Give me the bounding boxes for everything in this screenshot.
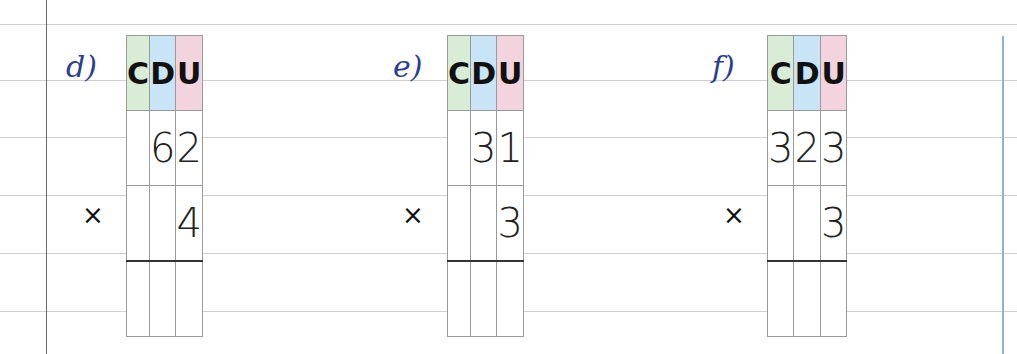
multiplier-d[interactable] bbox=[794, 186, 820, 262]
blue-margin-line bbox=[1002, 36, 1004, 354]
header-d: D bbox=[794, 36, 820, 111]
header-u: U bbox=[820, 36, 846, 111]
place-value-grid: C D U 3 1 3 bbox=[447, 35, 524, 337]
exercise-label: e) bbox=[393, 49, 422, 84]
multiplicand-c[interactable]: 3 bbox=[768, 111, 794, 186]
header-u: U bbox=[176, 36, 202, 111]
margin-line bbox=[46, 0, 47, 354]
multiply-sign: × bbox=[82, 200, 104, 230]
header-d: D bbox=[471, 36, 497, 111]
multiplicand-d[interactable]: 3 bbox=[471, 111, 497, 186]
header-c: C bbox=[448, 36, 471, 111]
result-u[interactable] bbox=[820, 261, 846, 337]
place-value-grid: C D U 6 2 4 bbox=[126, 35, 203, 337]
exercise-label: f) bbox=[712, 49, 735, 84]
result-d[interactable] bbox=[471, 261, 497, 337]
result-u[interactable] bbox=[176, 261, 202, 337]
notebook-line bbox=[0, 24, 1017, 25]
multiplier-d[interactable] bbox=[471, 186, 497, 262]
multiplier-u[interactable]: 3 bbox=[497, 186, 523, 262]
header-c: C bbox=[768, 36, 794, 111]
result-c[interactable] bbox=[768, 261, 794, 337]
multiplicand-u[interactable]: 3 bbox=[820, 111, 846, 186]
result-u[interactable] bbox=[497, 261, 523, 337]
header-u: U bbox=[497, 36, 523, 111]
multiplier-c[interactable] bbox=[127, 186, 150, 262]
multiplier-d[interactable] bbox=[150, 186, 176, 262]
header-d: D bbox=[150, 36, 176, 111]
multiplier-u[interactable]: 4 bbox=[176, 186, 202, 262]
multiplicand-u[interactable]: 1 bbox=[497, 111, 523, 186]
multiplier-c[interactable] bbox=[768, 186, 794, 262]
multiplicand-d[interactable]: 2 bbox=[794, 111, 820, 186]
multiplier-c[interactable] bbox=[448, 186, 471, 262]
header-c: C bbox=[127, 36, 150, 111]
multiplier-u[interactable]: 3 bbox=[820, 186, 846, 262]
multiply-sign: × bbox=[402, 200, 424, 230]
multiplicand-u[interactable]: 2 bbox=[176, 111, 202, 186]
result-d[interactable] bbox=[794, 261, 820, 337]
result-c[interactable] bbox=[127, 261, 150, 337]
multiplicand-c[interactable] bbox=[448, 111, 471, 186]
result-d[interactable] bbox=[150, 261, 176, 337]
multiplicand-d[interactable]: 6 bbox=[150, 111, 176, 186]
multiply-sign: × bbox=[723, 200, 745, 230]
place-value-grid: C D U 3 2 3 3 bbox=[767, 35, 847, 337]
result-c[interactable] bbox=[448, 261, 471, 337]
exercise-label: d) bbox=[66, 49, 97, 84]
multiplicand-c[interactable] bbox=[127, 111, 150, 186]
